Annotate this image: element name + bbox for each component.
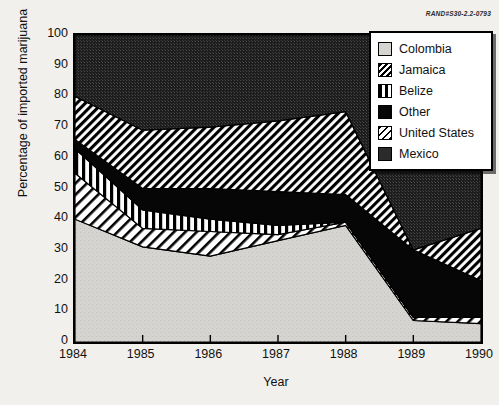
x-tick-1987: 1987 [246,347,306,361]
rand-publication-id: RAND#S30-2.2-0793 [426,10,491,17]
legend-swatch-diagonal-hatch-sparse-icon [378,126,392,140]
y-tick-20: 20 [34,272,68,285]
legend-item-belize[interactable]: Belize [378,80,485,101]
x-tick-1988: 1988 [314,347,374,361]
legend-item-other[interactable]: Other [378,101,485,122]
legend-label: United States [399,126,474,140]
y-tick-100: 100 [34,27,68,40]
legend-swatch-solid-light-gray-icon [378,42,392,56]
x-tick-1984: 1984 [43,347,103,361]
legend-item-mexico[interactable]: Mexico [378,143,485,164]
legend-swatch-vertical-bars-icon [378,84,392,98]
legend-item-jamaica[interactable]: Jamaica [378,59,485,80]
legend-label: Colombia [399,42,452,56]
y-tick-50: 50 [34,180,68,193]
x-tick-1986: 1986 [178,347,238,361]
legend-item-united-states[interactable]: United States [378,122,485,143]
y-axis-title: Percentage of imported marijuana [16,0,30,218]
y-tick-80: 80 [34,88,68,101]
legend-label: Belize [399,84,433,98]
legend-swatch-solid-dark-gray-icon [378,147,392,161]
y-axis-tick-labels: 1009080706050403020100 [30,0,68,405]
y-tick-70: 70 [34,119,68,132]
x-tick-1989: 1989 [381,347,441,361]
x-tick-1990: 1990 [449,347,499,361]
legend-label: Other [399,105,430,119]
legend-label: Jamaica [399,63,446,77]
legend-item-colombia[interactable]: Colombia [378,38,485,59]
y-tick-40: 40 [34,211,68,224]
legend-label: Mexico [399,147,439,161]
chart-legend: ColombiaJamaicaBelizeOtherUnited StatesM… [369,31,493,171]
legend-swatch-diagonal-hatch-dense-icon [378,63,392,77]
legend-swatch-solid-black-icon [378,105,392,119]
y-tick-90: 90 [34,57,68,70]
y-tick-0: 0 [34,334,68,347]
y-tick-60: 60 [34,150,68,163]
y-tick-30: 30 [34,242,68,255]
y-tick-10: 10 [34,303,68,316]
x-tick-1985: 1985 [111,347,171,361]
x-axis-title: Year [73,375,479,389]
figure-container: RAND#S30-2.2-0793 Percentage of imported… [0,0,499,405]
